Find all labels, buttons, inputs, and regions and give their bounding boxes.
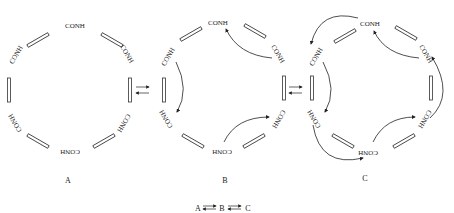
group-label: CONH (118, 43, 135, 64)
group-label: CONH (8, 44, 25, 65)
equation-c: C (245, 204, 250, 213)
bar (430, 76, 433, 100)
ring-b: CONH CONH CONH CONH CONH CONH B (158, 19, 287, 185)
ring-c: CONH CONH CONH CONH CONH CONH C (306, 16, 443, 183)
bar (243, 134, 265, 149)
bar (180, 27, 202, 42)
ring-label-a: A (65, 176, 71, 185)
bar (27, 134, 49, 149)
group-label: CONH (416, 108, 433, 129)
group-label: CONH (358, 149, 378, 157)
bar (93, 134, 115, 149)
group-label: CONH (60, 148, 80, 156)
rotation-arrow (313, 125, 363, 160)
group-label: CONH (308, 46, 325, 67)
bar (332, 134, 354, 149)
rotation-arrow (323, 62, 331, 112)
bar (334, 29, 356, 44)
ring-label-b: B (222, 176, 227, 185)
ring-a: CONH CONH CONH CONH CONH CONH A (7, 22, 135, 185)
equilibrium-arrows (136, 87, 149, 93)
bar (8, 78, 11, 102)
group-label: CONH (65, 22, 85, 30)
conformation-diagram: CONH CONH CONH CONH CONH CONH A CONH CON… (0, 0, 454, 213)
rotation-arrow (176, 62, 183, 112)
group-label: CONH (360, 20, 380, 28)
bar (163, 78, 166, 102)
equilibrium-equation: A B C (195, 204, 251, 213)
group-label: CONH (212, 148, 232, 156)
group-label: CONH (417, 43, 434, 64)
bar (311, 76, 314, 100)
bar (395, 26, 417, 41)
bar (27, 33, 49, 48)
group-label: CONH (269, 43, 286, 64)
bar (129, 78, 132, 102)
group-label: CONH (158, 108, 175, 129)
equation-a: A (195, 204, 201, 213)
bar (244, 24, 266, 39)
group-label: CONH (7, 112, 24, 133)
group-label: CONH (306, 108, 323, 129)
rotation-arrow (311, 16, 358, 44)
equation-b: B (219, 204, 224, 213)
group-label: CONH (160, 46, 177, 67)
ring-label-c: C (362, 174, 367, 183)
equilibrium-arrows (289, 87, 302, 93)
group-label: CONH (270, 108, 287, 129)
bar (101, 33, 123, 48)
group-label: CONH (115, 112, 132, 133)
bar (283, 76, 286, 100)
bar (182, 134, 204, 149)
rotation-arrow (226, 29, 272, 58)
bar (393, 134, 415, 149)
group-label: CONH (208, 19, 228, 27)
